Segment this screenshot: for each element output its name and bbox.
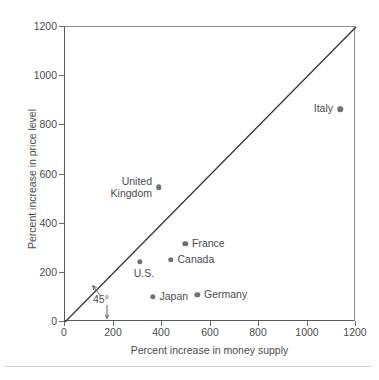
data-point-canada[interactable] [168, 257, 173, 262]
y-axis-title: Percent increase in price level [26, 69, 38, 289]
x-tick-label-200: 200 [88, 327, 138, 338]
data-point-us[interactable] [137, 259, 142, 264]
data-point-japan[interactable] [150, 294, 155, 299]
data-label-united-kingdom-line2: Kingdom [111, 188, 152, 200]
data-label-germany: Germany [204, 289, 247, 301]
data-point-italy[interactable] [337, 107, 342, 112]
data-point-germany[interactable] [194, 292, 199, 297]
scatter-chart-figure: 1200 1000 800 600 400 200 0 0 200 400 60… [0, 0, 379, 380]
plot-area: Italy United Kingdom France Canada U.S. … [64, 26, 355, 321]
data-label-united-kingdom-line1: United [122, 176, 152, 188]
x-tick-label-600: 600 [185, 327, 235, 338]
y-tick-label-0: 0 [0, 316, 57, 327]
data-point-united-kingdom[interactable] [156, 185, 161, 190]
data-label-canada: Canada [178, 254, 215, 266]
bottom-divider [4, 366, 372, 367]
data-label-japan: Japan [160, 291, 189, 303]
data-label-italy: Italy [314, 104, 333, 116]
x-tick-label-800: 800 [233, 327, 283, 338]
y-tick-label-1200: 1200 [0, 21, 57, 32]
x-tick-label-400: 400 [136, 327, 186, 338]
data-label-france: France [192, 238, 225, 250]
data-label-us: U.S. [134, 268, 154, 280]
forty-five-degree-reference-line [65, 27, 356, 322]
data-point-france[interactable] [183, 241, 188, 246]
angle-annotation-label: 45° [93, 293, 109, 305]
x-axis-title: Percent increase in money supply [64, 344, 355, 356]
x-tick-label-1200: 1200 [330, 327, 379, 338]
x-tick-label-0: 0 [39, 327, 89, 338]
x-tick-label-1000: 1000 [282, 327, 332, 338]
